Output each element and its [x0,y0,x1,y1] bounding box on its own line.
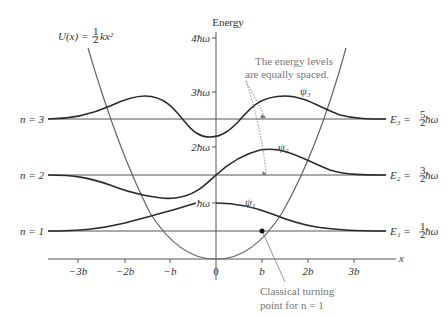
svg-text:are equally spaced.: are equally spaced. [245,68,329,80]
x-tick-b: b [259,265,265,277]
svg-text:U(x) =: U(x) = [58,30,88,43]
x-tick-neg2b: −2b [116,265,135,277]
svg-text:E₂ =: E₂ = [389,169,411,181]
energy-tick-3: 3ħω [190,86,210,98]
psi2-curve [48,149,386,198]
svg-text:E₁ =: E₁ = [389,225,411,237]
svg-text:ħω: ħω [425,225,439,237]
energy-label-e3: E₃ = 5 2 ħω [389,108,439,128]
svg-text:point for n = 1: point for n = 1 [260,299,324,311]
n2-label: n = 2 [20,169,44,181]
x-tick-neg3b: −3b [69,265,88,277]
psi1-label: ψ₁ [245,196,256,208]
equal-spacing-annotation: The energy levels are equally spaced. [245,55,333,175]
svg-text:kx²: kx² [100,30,114,42]
turning-point-marker [260,229,265,234]
x-tick-2b: 2b [303,265,315,277]
energy-axis-label: Energy [212,16,244,28]
x-axis: −3b −2b −b 0 b 2b 3b x [48,252,404,277]
psi1-curve [48,203,386,231]
energy-tick-1: ħω [197,197,211,209]
x-tick-3b: 3b [348,265,361,277]
energy-tick-4: 4ħω [191,32,210,44]
x-axis-label: x [398,252,404,264]
svg-text:ħω: ħω [425,113,439,125]
svg-text:Classical turning: Classical turning [260,285,335,297]
svg-text:ħω: ħω [425,169,439,181]
svg-text:2: 2 [93,33,99,45]
potential-label: U(x) = 1 2 kx² [58,25,114,45]
energy-axis: Energy 4ħω 3ħω 2ħω ħω [190,16,244,280]
energy-tick-2: 2ħω [191,141,210,153]
harmonic-oscillator-diagram: −3b −2b −b 0 b 2b 3b x Energy 4ħω 3ħω 2ħ… [0,0,448,318]
energy-label-e1: E₁ = 1 2 ħω [389,220,439,240]
svg-text:E₃ =: E₃ = [389,113,411,125]
psi3-label: ψ₃ [300,85,311,97]
n3-label: n = 3 [20,113,44,125]
psi2-label: ψ₂ [278,141,289,153]
psi3-curve [48,96,386,137]
energy-label-e2: E₂ = 3 2 ħω [389,164,439,184]
svg-text:The energy levels: The energy levels [255,55,333,67]
turning-point-annotation: Classical turning point for n = 1 [260,229,335,312]
x-tick-negb: −b [164,265,177,277]
n1-label: n = 1 [20,225,44,237]
